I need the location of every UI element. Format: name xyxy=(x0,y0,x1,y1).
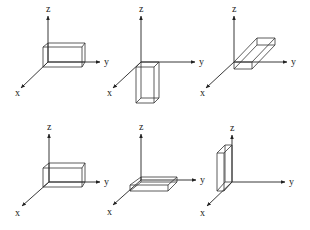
panel-2: zyx xyxy=(107,3,204,103)
box xyxy=(217,145,232,191)
box-face-near xyxy=(234,62,252,69)
panel-3: zyx xyxy=(200,3,296,98)
x-axis-label: x xyxy=(107,206,112,217)
panel-5: zyx xyxy=(107,121,205,217)
box-edge xyxy=(82,182,85,187)
box xyxy=(43,43,85,67)
box-edge xyxy=(252,38,275,62)
y-axis-label: y xyxy=(199,56,204,67)
box-edge xyxy=(252,45,275,69)
x-axis-label: x xyxy=(15,207,20,218)
box-face-back xyxy=(48,43,85,62)
x-axis-label: x xyxy=(200,207,205,218)
x-axis-label: x xyxy=(107,87,112,98)
z-axis-label: z xyxy=(47,121,52,132)
box-edge xyxy=(43,163,49,168)
z-axis-label: z xyxy=(139,121,144,132)
panel-6: zyx xyxy=(200,122,294,218)
y-axis-label: y xyxy=(104,56,109,67)
y-axis-label: y xyxy=(291,56,296,67)
z-axis-label: z xyxy=(232,3,237,14)
diagram-canvas: zyxzyxzyxzyxzyxzyx xyxy=(0,0,310,230)
box-face-back xyxy=(141,177,177,182)
box-edge xyxy=(43,43,48,47)
box-face-far xyxy=(257,38,275,45)
figure-3d-box-orientations: zyxzyxzyxzyxzyxzyx xyxy=(0,0,310,230)
box-face-back xyxy=(49,163,85,182)
box-edge xyxy=(82,163,85,168)
y-axis-label: y xyxy=(200,174,205,185)
box xyxy=(234,38,275,69)
box-face-front xyxy=(43,47,82,67)
z-axis-label: z xyxy=(139,3,144,14)
box-edge xyxy=(234,45,257,69)
panel-1: zyx xyxy=(15,3,109,98)
box-edge xyxy=(43,62,48,67)
box-edge xyxy=(217,145,225,153)
x-axis-label: x xyxy=(15,87,20,98)
z-axis-label: z xyxy=(230,122,235,133)
box-edge xyxy=(224,182,232,191)
x-axis xyxy=(207,182,232,206)
box-edge xyxy=(43,182,49,187)
y-axis-label: y xyxy=(289,176,294,187)
x-axis xyxy=(206,62,234,88)
x-axis-label: x xyxy=(200,87,205,98)
box-edge xyxy=(154,62,159,67)
z-axis-label: z xyxy=(46,3,51,14)
box-edge xyxy=(82,62,85,67)
box-edge xyxy=(82,43,85,47)
panel-4: zyx xyxy=(15,121,109,218)
y-axis-label: y xyxy=(104,176,109,187)
box-edge xyxy=(136,62,141,67)
box-edge xyxy=(234,38,257,62)
box-face-front xyxy=(217,153,224,191)
box-edge xyxy=(136,98,141,103)
box xyxy=(136,62,159,103)
x-axis xyxy=(113,180,141,205)
box xyxy=(43,163,85,187)
box-edge xyxy=(154,98,159,103)
